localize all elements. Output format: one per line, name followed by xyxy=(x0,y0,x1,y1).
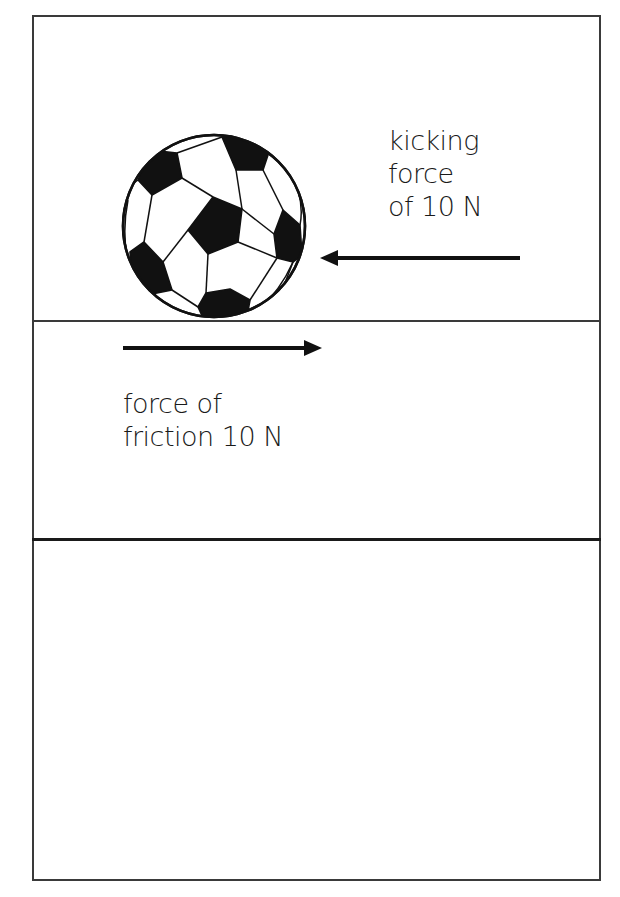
friction-force-label-line-2: friction 10 N xyxy=(123,420,283,453)
kicking-force-label-line-2: force xyxy=(388,157,482,190)
soccer-ball-icon xyxy=(123,124,305,322)
kicking-force-label: kicking force of 10 N xyxy=(388,124,482,223)
kicking-force-label-line-1: kicking xyxy=(388,124,482,157)
empty-answer-panel xyxy=(34,541,599,879)
kicking-force-label-line-3: of 10 N xyxy=(388,190,482,223)
friction-force-label: force of friction 10 N xyxy=(123,387,283,453)
kicking-force-arrow xyxy=(320,250,520,266)
friction-force-arrow xyxy=(123,340,322,356)
friction-force-label-line-1: force of xyxy=(123,387,283,420)
